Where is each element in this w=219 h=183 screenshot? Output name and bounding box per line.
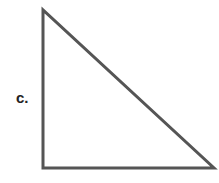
right-triangle-diagram <box>0 0 219 183</box>
triangle-shape <box>43 10 214 168</box>
